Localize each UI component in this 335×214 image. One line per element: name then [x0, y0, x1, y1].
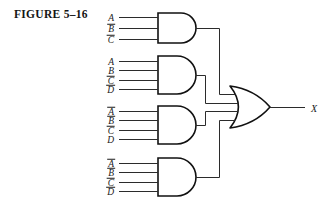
variable-glyph: A	[107, 13, 115, 23]
and-gate-1-input-label-1: A	[107, 12, 115, 23]
or-gate	[230, 86, 270, 128]
and-gate-2-input-label-2: B	[107, 65, 115, 76]
and-gate-3-output-wire	[196, 112, 238, 126]
and-gate-1-input-label-3: C	[107, 34, 115, 45]
and-gate-1-output-wire	[196, 29, 235, 95]
and-gate-2-input-label-4: D	[106, 84, 115, 95]
and-gate-3	[158, 106, 196, 144]
variable-glyph: B	[107, 24, 115, 34]
and-gate-4-output-wire	[196, 121, 235, 178]
figure-container: FIGURE 5–16 ABCABCDABCDABCD X	[0, 0, 335, 214]
variable-glyph: C	[107, 35, 115, 45]
variable-glyph: D	[106, 85, 115, 95]
variable-glyph: D	[106, 135, 115, 145]
and-gate-4-input-label-4: D	[106, 186, 115, 197]
output-label-x: X	[311, 102, 317, 113]
and-gate-3-input-label-4: D	[106, 134, 115, 145]
and-gate-4	[158, 158, 196, 196]
logic-circuit-diagram	[0, 0, 335, 214]
and-gate-3-input-label-2: B	[107, 115, 115, 126]
and-gate-4-input-label-2: B	[107, 167, 115, 178]
and-gate-1-input-label-2: B	[107, 23, 115, 34]
and-gate-1	[158, 13, 196, 43]
variable-glyph: D	[106, 187, 115, 197]
and-gate-2	[158, 56, 196, 94]
